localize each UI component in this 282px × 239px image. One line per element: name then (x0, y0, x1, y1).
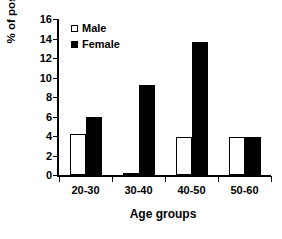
y-axis-tick-label: 10 (40, 72, 52, 84)
legend-swatch-female-icon (71, 41, 78, 48)
legend-item-male: Male (71, 22, 120, 35)
y-axis-tick (53, 97, 59, 98)
y-axis-tick (53, 156, 59, 157)
y-axis-tick-label: 14 (40, 33, 52, 45)
bar-male-40-50 (176, 137, 192, 175)
x-axis-tick-label: 50-60 (230, 184, 258, 196)
y-axis-tick (53, 136, 59, 137)
y-axis-tick-label: 6 (46, 111, 52, 123)
legend-swatch-male-icon (71, 25, 78, 32)
bar-male-20-30 (70, 134, 86, 175)
bar-female-50-60 (245, 137, 261, 175)
bar-male-30-40 (123, 173, 139, 175)
y-axis-tick (53, 58, 59, 59)
x-axis-tick (112, 176, 113, 182)
y-axis-tick (53, 78, 59, 79)
bar-male-50-60 (229, 137, 245, 175)
y-axis-tick (53, 19, 59, 20)
legend-label-female: Female (82, 38, 120, 51)
bar-female-20-30 (86, 117, 102, 175)
legend: Male Female (71, 22, 120, 51)
bar-female-30-40 (139, 85, 155, 175)
legend-label-male: Male (82, 22, 106, 35)
x-axis-tick-label: 20-30 (71, 184, 99, 196)
y-axis-tick-label: 2 (46, 150, 52, 162)
x-axis-tick (271, 176, 272, 182)
bar-female-40-50 (192, 42, 208, 175)
x-axis-title: Age groups (57, 207, 269, 221)
x-axis-title-text: Age groups (130, 207, 197, 221)
y-axis-tick-label: 12 (40, 52, 52, 64)
y-axis-tick-label: 4 (46, 130, 52, 142)
y-axis-tick-label: 16 (40, 13, 52, 25)
x-axis-tick (218, 176, 219, 182)
y-axis-tick-label: 8 (46, 91, 52, 103)
y-axis-tick (53, 39, 59, 40)
y-axis-tick (53, 117, 59, 118)
y-axis-title: % of positive (2, 0, 20, 68)
x-axis-tick-label: 30-40 (124, 184, 152, 196)
x-axis-tick (59, 176, 60, 182)
x-axis-tick (165, 176, 166, 182)
x-axis-tick-label: 40-50 (177, 184, 205, 196)
y-axis-title-text: % of positive (5, 0, 17, 43)
legend-item-female: Female (71, 38, 120, 51)
bar-chart: % of positive 0246810121416 20-3030-4040… (0, 0, 282, 239)
y-axis-tick-label: 0 (46, 169, 52, 181)
